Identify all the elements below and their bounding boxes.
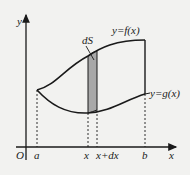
x-axis-label: x bbox=[168, 149, 174, 161]
origin-label: O bbox=[16, 149, 24, 161]
f-curve-label: y=f(x) bbox=[111, 24, 140, 37]
tick-label-b: b bbox=[142, 149, 148, 161]
ds-strip bbox=[88, 51, 97, 113]
tick-label-a: a bbox=[34, 149, 40, 161]
tick-label-x-plus-dx: x+dx bbox=[95, 149, 119, 161]
tick-label-x: x bbox=[83, 149, 89, 161]
area-diagram: y x O a x x+dx b dS y=f(x) y=g(x) bbox=[0, 0, 190, 175]
ds-label: dS bbox=[82, 34, 94, 46]
y-axis-label: y bbox=[16, 15, 22, 27]
g-curve-label: y=g(x) bbox=[149, 87, 180, 100]
